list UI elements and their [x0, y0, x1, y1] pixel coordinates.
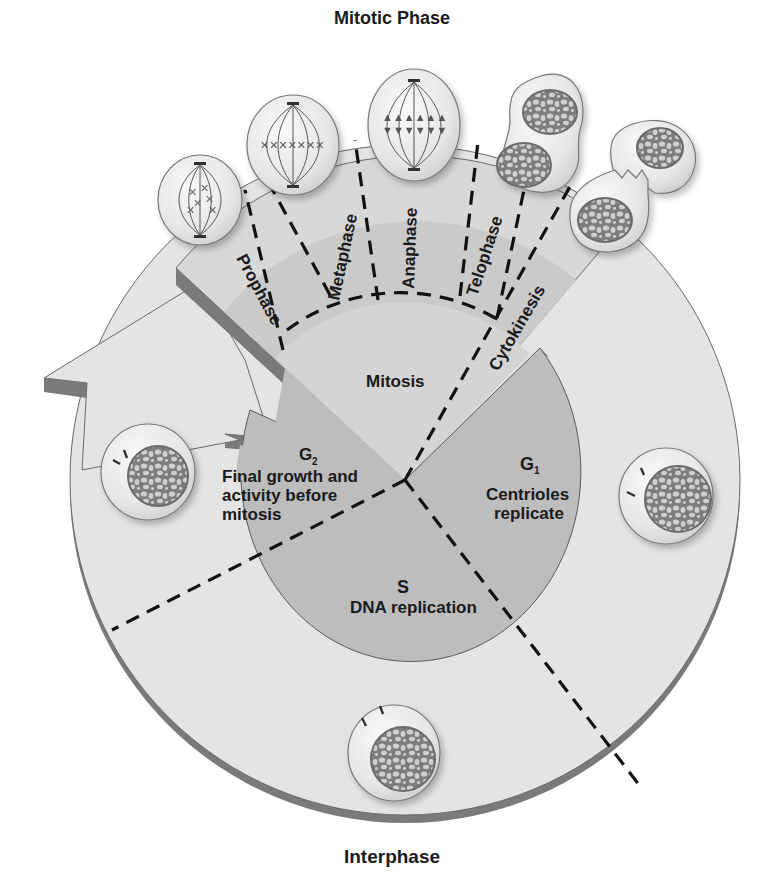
label-s: S — [397, 577, 409, 597]
metaphase-cell-icon: ✕✕✕✕✕✕✕ — [247, 95, 339, 195]
s-desc-line-1: DNA replication — [350, 598, 477, 617]
prophase-cell-icon: ✕✕✕ ✕✕✕ — [158, 155, 242, 245]
g2-desc-line-1: Final growth and — [222, 467, 358, 486]
cytokinesis-cells-icon — [570, 121, 696, 253]
cell-cycle-diagram: Prophase Metaphase Anaphase Telophase Cy… — [0, 0, 784, 882]
g1-cell-icon — [619, 448, 713, 544]
g1-desc-line-1: Centrioles — [486, 485, 569, 504]
telophase-cell-icon — [497, 74, 583, 192]
g2-desc-line-3: mitosis — [222, 505, 282, 524]
svg-text:✕: ✕ — [186, 204, 195, 216]
svg-text:✕✕✕✕✕✕✕: ✕✕✕✕✕✕✕ — [260, 139, 325, 151]
svg-text:▼▼▼▼▼▼: ▼▼▼▼▼▼ — [382, 124, 447, 136]
label-g1-sub: 1 — [534, 465, 540, 476]
label-g2-sub: 2 — [312, 456, 318, 467]
svg-text:✕: ✕ — [208, 204, 217, 216]
s-cell-icon — [348, 705, 440, 801]
interphase-label: Interphase — [312, 846, 472, 868]
g2-cell-icon — [101, 424, 195, 520]
label-g2: G — [299, 445, 312, 464]
label-g1: G — [520, 454, 534, 474]
label-anaphase: Anaphase — [399, 207, 421, 289]
g2-desc-line-2: activity before — [222, 486, 337, 505]
label-mitosis: Mitosis — [366, 372, 425, 391]
anaphase-cell-icon: ▲▲▲▲▲▲ ▼▼▼▼▼▼ — [368, 69, 460, 181]
svg-text:▲▲▲▲▲▲: ▲▲▲▲▲▲ — [382, 111, 447, 123]
g1-desc-line-2: replicate — [494, 504, 564, 523]
